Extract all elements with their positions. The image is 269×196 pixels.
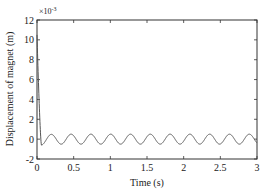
y-tick-label: 4 — [29, 94, 34, 105]
y-tick-label: 10 — [24, 34, 34, 45]
y-tick-label: 2 — [29, 114, 34, 125]
y-tick-label: 0 — [29, 134, 34, 145]
y-tick-label: 8 — [29, 54, 34, 65]
x-tick-label: 1.5 — [141, 162, 154, 173]
y-axis-label: Displacement of magnet (m) — [4, 32, 16, 147]
plot-border — [37, 20, 257, 159]
plot-frame — [37, 20, 257, 159]
x-axis-ticks: 00.511.522.53 — [35, 20, 260, 173]
x-tick-label: 2.5 — [214, 162, 227, 173]
x-tick-label: 2 — [181, 162, 186, 173]
x-tick-label: 0 — [35, 162, 40, 173]
x-axis-label: Time (s) — [130, 177, 164, 189]
y-tick-label: 12 — [24, 15, 34, 26]
x-tick-label: 1 — [108, 162, 113, 173]
y-tick-label: -2 — [26, 154, 34, 165]
displacement-chart: -2024681012 00.511.522.53 ×10-3 Time (s)… — [0, 0, 269, 196]
x-tick-label: 3 — [255, 162, 260, 173]
y-axis-multiplier: ×10-3 — [39, 6, 57, 16]
y-tick-label: 6 — [29, 74, 34, 85]
displacement-curve — [37, 35, 257, 145]
x-tick-label: 0.5 — [67, 162, 80, 173]
